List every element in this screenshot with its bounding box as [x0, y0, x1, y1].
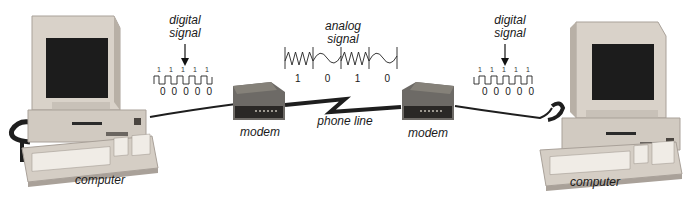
- right-computer-label: computer: [560, 176, 630, 189]
- down-arrow-icon: [500, 44, 510, 66]
- bit: 0: [384, 73, 390, 84]
- right-square-wave: [474, 75, 534, 85]
- bit: 0: [195, 86, 201, 97]
- label-line: signal: [318, 33, 368, 46]
- bit: 1: [526, 66, 530, 73]
- left-square-wave: [154, 75, 214, 85]
- bit: 1: [490, 66, 494, 73]
- bit: 1: [181, 66, 185, 73]
- bit: 1: [193, 66, 197, 73]
- phone-line-label: phone line: [310, 115, 380, 128]
- bit: 1: [502, 66, 506, 73]
- bit: 1: [295, 73, 301, 84]
- label-line: signal: [160, 27, 210, 40]
- left-modem-icon: [229, 80, 289, 126]
- bit: 1: [355, 73, 361, 84]
- bit: 0: [206, 86, 212, 97]
- left-digital-signal-label: digital signal: [160, 14, 210, 40]
- bit: 1: [169, 66, 173, 73]
- right-modem-label: modem: [400, 127, 456, 140]
- bit: 0: [160, 86, 166, 97]
- left-computer-icon: [2, 10, 172, 160]
- label-line: signal: [485, 27, 535, 40]
- left-computer-label: computer: [65, 174, 135, 187]
- bit: 0: [172, 86, 178, 97]
- analog-bits: 1 0 1 0: [295, 73, 390, 84]
- bit: 0: [517, 86, 523, 97]
- right-digital-bottom-bits: 0 0 0 0 0: [482, 86, 534, 97]
- right-modem-icon: [398, 80, 458, 126]
- bit: 1: [478, 66, 482, 73]
- left-modem-label: modem: [232, 126, 288, 139]
- down-arrow-icon: [180, 44, 190, 66]
- bit: 1: [205, 66, 209, 73]
- right-digital-top-bits: 1 1 1 1 1: [478, 66, 530, 73]
- analog-signal-label: analog signal: [318, 20, 368, 46]
- left-digital-bottom-bits: 0 0 0 0 0: [160, 86, 212, 97]
- bit: 0: [528, 86, 534, 97]
- bit: 0: [482, 86, 488, 97]
- analog-waveform: [285, 47, 400, 71]
- left-digital-top-bits: 1 1 1 1 1: [157, 66, 209, 73]
- bit: 1: [514, 66, 518, 73]
- right-computer-icon: [516, 14, 686, 174]
- right-digital-signal-label: digital signal: [485, 14, 535, 40]
- bit: 0: [505, 86, 511, 97]
- bit: 0: [494, 86, 500, 97]
- bit: 1: [157, 66, 161, 73]
- bit: 0: [183, 86, 189, 97]
- bit: 0: [325, 73, 331, 84]
